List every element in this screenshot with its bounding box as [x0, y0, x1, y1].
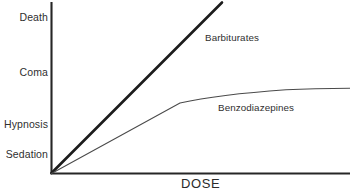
benzodiazepines-series-line — [52, 88, 350, 173]
series-label-benzodiazepines: Benzodiazepines — [218, 102, 294, 113]
y-tick-label-coma: Coma — [8, 67, 48, 78]
x-axis-title: DOSE — [181, 177, 220, 191]
y-tick-label-hypnosis: Hypnosis — [2, 119, 48, 130]
y-tick-label-death: Death — [8, 12, 48, 23]
series-label-barbiturates: Barbiturates — [205, 32, 259, 43]
plot-area — [0, 0, 350, 191]
y-tick-label-sedation: Sedation — [2, 149, 48, 160]
dose-response-chart: Death Coma Hypnosis Sedation Barbiturate… — [0, 0, 350, 191]
barbiturates-series-line — [52, 3, 223, 174]
